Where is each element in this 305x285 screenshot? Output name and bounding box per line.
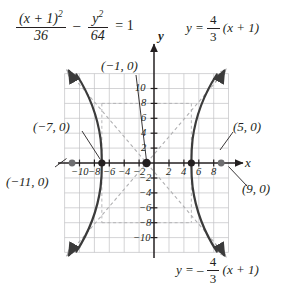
y-tick-8: 8 (141, 97, 146, 108)
y-tick-10: 10 (135, 82, 146, 93)
label-center: (−1, 0) (101, 58, 138, 74)
x-tick--10: −10 (71, 166, 89, 177)
y-tick-4: 4 (141, 127, 146, 138)
x-tick--6: −6 (103, 166, 115, 177)
x-tick--4: −4 (118, 166, 130, 177)
label-focus-left: (−11, 0) (6, 174, 48, 190)
plot-svg (0, 0, 305, 285)
y-tick-6: 6 (141, 112, 146, 123)
point-vertex-right (188, 159, 195, 166)
point-focus-right (218, 160, 225, 167)
x-tick-2: 2 (166, 166, 171, 177)
y-tick--4: −4 (139, 187, 151, 198)
y-tick-2: 2 (141, 142, 146, 153)
label-vertex-right: (5, 0) (233, 119, 261, 135)
x-axis-label: x (245, 155, 251, 171)
y-tick--10: −10 (133, 232, 151, 243)
label-vertex-left: (−7, 0) (33, 119, 70, 135)
y-axis-label: y (158, 28, 164, 44)
y-tick--2: −2 (139, 172, 151, 183)
x-tick-6: 6 (196, 166, 201, 177)
y-tick--8: −8 (139, 217, 151, 228)
y-tick--6: −6 (139, 202, 151, 213)
x-tick-8: 8 (211, 166, 216, 177)
hyperbola-figure: (x + 1)2 36 – y2 64 = 1 y = 4 3 (x + 1) … (0, 0, 305, 285)
x-tick-4: 4 (181, 166, 186, 177)
label-focus-right: (9, 0) (242, 181, 270, 197)
x-tick--8: −8 (88, 166, 100, 177)
